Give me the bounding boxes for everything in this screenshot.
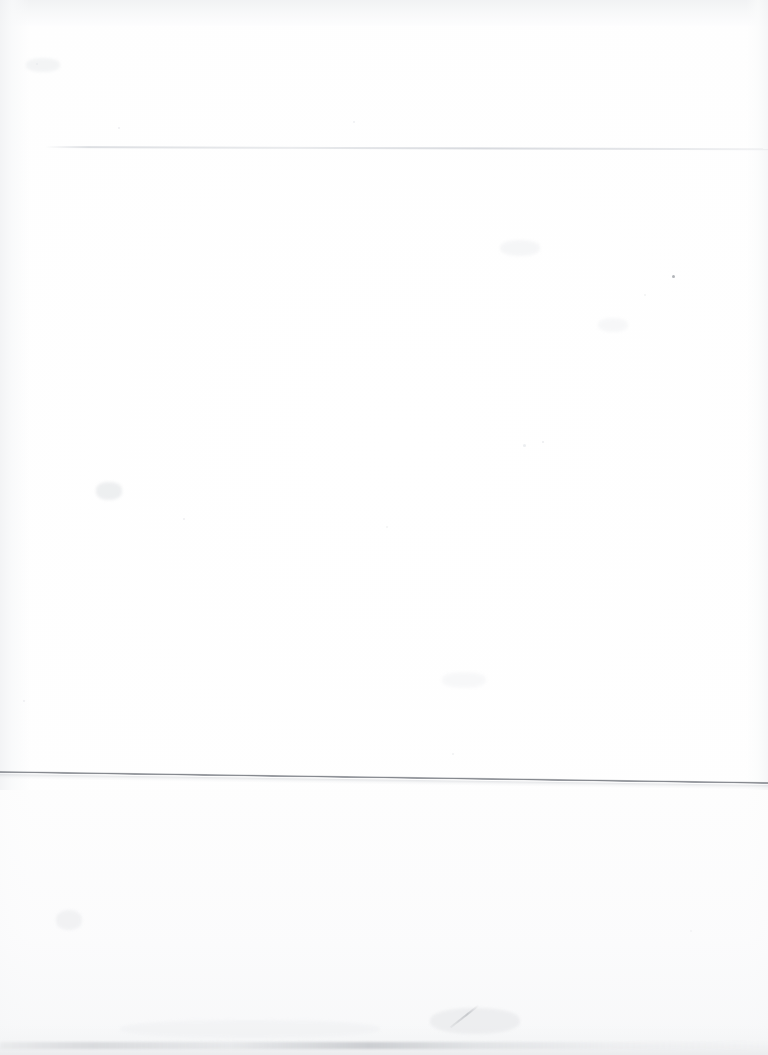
smudge-bottom-mid	[430, 1008, 520, 1034]
page-right-shading	[746, 0, 768, 1055]
speck-mid-upper	[353, 121, 355, 123]
page-text-content	[70, 180, 690, 740]
faint-horizontal-rule	[45, 146, 768, 150]
paper-edge-line-halo	[0, 774, 768, 790]
smudge-lower-left	[56, 910, 82, 930]
bottom-smudge-band	[0, 1042, 768, 1049]
paper-edge-line	[0, 771, 768, 784]
page-top-shading	[0, 0, 768, 26]
smudge-bottom-wide	[120, 1020, 380, 1038]
speck-bottom-right	[690, 930, 692, 932]
page-lower-shading	[0, 790, 768, 1055]
scanned-page	[0, 0, 768, 1055]
smudge-upper-left	[26, 58, 60, 72]
speck-upper-left	[36, 63, 38, 65]
page-left-shading	[0, 0, 30, 1055]
diagonal-scratch-mark	[450, 1004, 479, 1027]
speck-lower-left	[23, 700, 25, 702]
speck-bottom-center	[452, 753, 454, 755]
speck-mid-left	[118, 127, 120, 129]
page-bottom-shading	[0, 1025, 768, 1055]
